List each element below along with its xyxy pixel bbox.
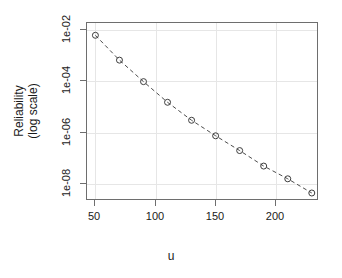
data-point	[116, 57, 122, 63]
x-tick-label-3: 200	[266, 210, 284, 222]
y-tick-0	[80, 29, 86, 30]
x-tick-2	[215, 200, 216, 206]
y-tick-3	[80, 183, 86, 184]
x-tick-label-0: 50	[88, 210, 100, 222]
y-tick-label-2: 1e-06	[60, 118, 72, 146]
series-markers	[92, 32, 314, 196]
x-tick-1	[155, 200, 156, 206]
x-tick-label-2: 150	[206, 210, 224, 222]
x-axis-title: u	[0, 249, 342, 263]
y-tick-2	[80, 132, 86, 133]
data-series-layer	[87, 23, 318, 200]
plot-area	[86, 22, 318, 200]
x-tick-3	[275, 200, 276, 206]
y-tick-label-0: 1e-02	[60, 15, 72, 43]
series-line	[95, 35, 311, 193]
reliability-chart-figure: 50100150200 1e-021e-041e-061e-08 u Relia…	[0, 0, 342, 278]
y-axis-title-line-1: Reliability	[12, 46, 26, 176]
x-tick-0	[94, 200, 95, 206]
y-tick-label-3: 1e-08	[60, 169, 72, 197]
y-tick-1	[80, 80, 86, 81]
x-tick-label-1: 100	[146, 210, 164, 222]
y-tick-label-1: 1e-04	[60, 66, 72, 94]
y-axis-title-line-2: (log scale)	[26, 46, 40, 176]
